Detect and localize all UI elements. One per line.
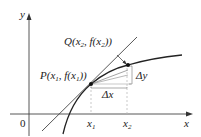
secant-line-diagram: y x 0 Q(x2, f(x2)) P(x1, f(x1)) x1 x2 Δx… <box>0 0 201 137</box>
point-p-label: P(x1, f(x1)) <box>39 69 87 83</box>
y-axis-arrow-icon <box>27 13 32 20</box>
x2-tick-label: x2 <box>122 117 132 131</box>
x-axis-label: x <box>183 117 189 129</box>
delta-x-label: Δx <box>101 88 113 100</box>
x1-tick-label: x1 <box>86 117 95 131</box>
x-axis-arrow-icon <box>186 112 193 117</box>
point-q <box>126 63 130 67</box>
y-axis-label: y <box>19 8 25 20</box>
origin-label: 0 <box>20 117 26 129</box>
dy-bracket <box>129 66 132 84</box>
point-q-label: Q(x2, f(x2)) <box>64 35 112 49</box>
delta-y-label: Δy <box>135 69 147 81</box>
point-p <box>89 82 93 86</box>
